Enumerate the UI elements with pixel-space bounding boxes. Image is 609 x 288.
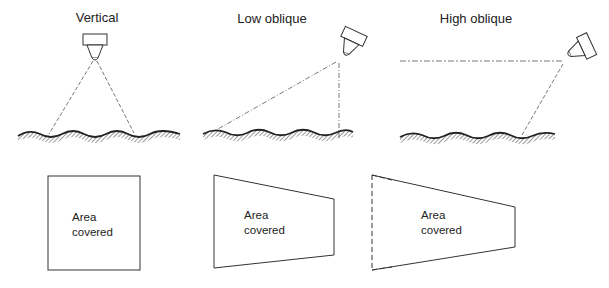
panel-title-vertical: Vertical	[76, 10, 119, 25]
field-of-view-rays	[400, 61, 563, 135]
field-of-view-rays	[218, 62, 339, 140]
high-oblique-panel	[372, 33, 597, 270]
aerial-photography-diagram	[0, 0, 609, 288]
camera-icon	[83, 34, 107, 60]
area-label-vertical: Area covered	[72, 210, 113, 240]
camera-icon	[563, 33, 597, 66]
area-label-line2: covered	[72, 225, 113, 240]
field-of-view-rays	[49, 61, 134, 134]
ground-surface-icon	[18, 131, 180, 143]
ground-surface-icon	[203, 130, 353, 142]
ground-surface-icon	[400, 133, 555, 145]
panel-title-low-oblique: Low oblique	[237, 11, 306, 26]
area-label-low-oblique: Area covered	[244, 208, 285, 238]
panel-title-high-oblique: High oblique	[440, 11, 512, 26]
camera-icon	[334, 26, 367, 60]
area-label-line2: covered	[244, 223, 285, 238]
low-oblique-panel	[203, 26, 367, 268]
area-label-line1: Area	[421, 208, 462, 223]
area-label-high-oblique: Area covered	[421, 208, 462, 238]
area-label-line1: Area	[244, 208, 285, 223]
area-label-line1: Area	[72, 210, 113, 225]
area-label-line2: covered	[421, 223, 462, 238]
